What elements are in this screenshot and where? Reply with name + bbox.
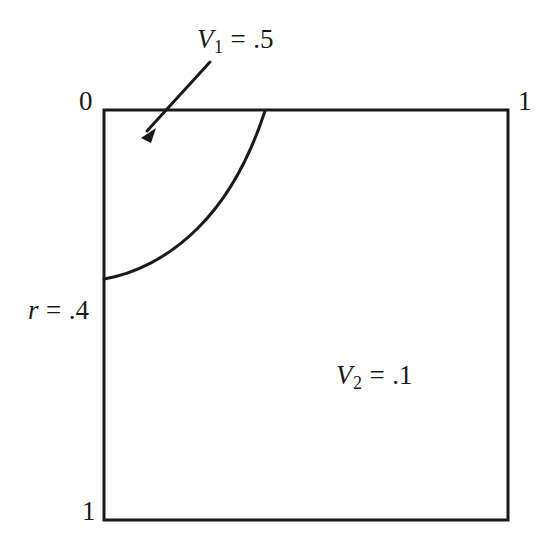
v1-subscript: 1 xyxy=(214,37,223,57)
v1-value: .5 xyxy=(253,24,273,54)
r-operator: = xyxy=(46,295,61,325)
v1-boundary-curve xyxy=(104,111,265,279)
corner-label-top-left: 0 xyxy=(79,88,93,115)
figure-container: 0 1 1 r=.4 V1=.5 V2=.1 xyxy=(0,0,556,560)
r-symbol: r xyxy=(28,295,39,325)
v1-operator: = xyxy=(231,24,246,54)
unit-square-frame xyxy=(104,110,508,520)
v2-operator: = xyxy=(370,360,385,390)
axis-tick-label-r: r=.4 xyxy=(28,297,89,324)
r-value: .4 xyxy=(69,295,89,325)
v1-symbol: V xyxy=(197,24,214,54)
region-label-v2: V2=.1 xyxy=(336,362,413,392)
corner-label-bottom-left: 1 xyxy=(82,498,96,525)
v2-subscript: 2 xyxy=(353,373,362,393)
curve-label-v1: V1=.5 xyxy=(197,26,274,56)
figure-canvas xyxy=(0,0,556,560)
v2-symbol: V xyxy=(336,360,353,390)
corner-label-top-right: 1 xyxy=(518,88,532,115)
v2-value: .1 xyxy=(392,360,412,390)
v1-annotation-arrow-line xyxy=(147,62,210,131)
